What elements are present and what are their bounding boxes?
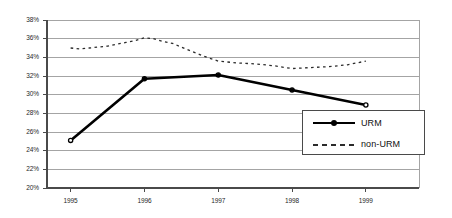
series-line-non-urm [71, 38, 366, 69]
legend-swatch-urm-icon [313, 118, 355, 128]
y-axis-tick-label: 34% [15, 54, 39, 61]
legend-item-urm: URM [313, 118, 382, 128]
x-axis-tick-label: 1997 [201, 198, 235, 205]
legend-label-non-urm: non-URM [361, 139, 400, 149]
y-axis-tick-label: 22% [15, 166, 39, 173]
chart-plot-svg [0, 0, 452, 218]
y-axis-tick-label: 30% [15, 91, 39, 98]
x-axis-tick-label: 1999 [349, 198, 383, 205]
legend-label-urm: URM [361, 118, 382, 128]
x-axis-tick-label: 1998 [275, 198, 309, 205]
x-axis-tick-label: 1995 [54, 198, 88, 205]
y-axis-tick-label: 26% [15, 129, 39, 136]
chart-legend: URM non-URM [302, 110, 425, 155]
chart-container: 20%22%24%26%28%30%32%34%36%38% 199519961… [0, 0, 452, 218]
x-axis-tick-label: 1996 [127, 198, 161, 205]
data-point-marker-urm [142, 77, 146, 81]
data-point-marker-urm [290, 88, 294, 92]
y-axis-tick-label: 28% [15, 110, 39, 117]
y-axis-tick-label: 36% [15, 35, 39, 42]
y-axis-tick-label: 20% [15, 185, 39, 192]
data-point-marker-urm [364, 103, 368, 107]
y-axis-tick-label: 32% [15, 73, 39, 80]
y-axis-tick-label: 38% [15, 17, 39, 24]
data-point-marker-urm [216, 73, 220, 77]
y-axis-tick-label: 24% [15, 147, 39, 154]
data-point-marker-urm [69, 138, 73, 142]
legend-swatch-non-urm-icon [313, 139, 355, 149]
legend-item-non-urm: non-URM [313, 139, 400, 149]
